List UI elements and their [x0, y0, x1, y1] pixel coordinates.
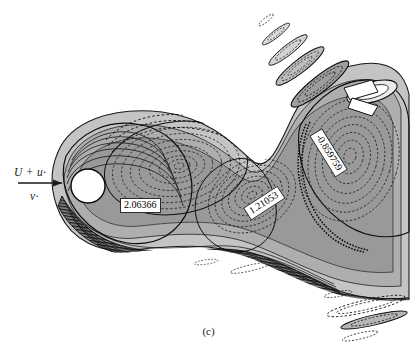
cylinder-body — [71, 169, 105, 203]
contour-level-label-1: 2.06366 — [120, 198, 161, 213]
figure-caption: (c) — [0, 325, 417, 337]
vorticity-contour-figure: U + u· v· 2.06366 1.21053 -0.859759 (c) — [0, 0, 417, 361]
contour-plot-canvas — [0, 0, 417, 361]
inflow-perturbation-label: v· — [30, 190, 39, 202]
inflow-velocity-label: U + u· — [14, 166, 46, 178]
